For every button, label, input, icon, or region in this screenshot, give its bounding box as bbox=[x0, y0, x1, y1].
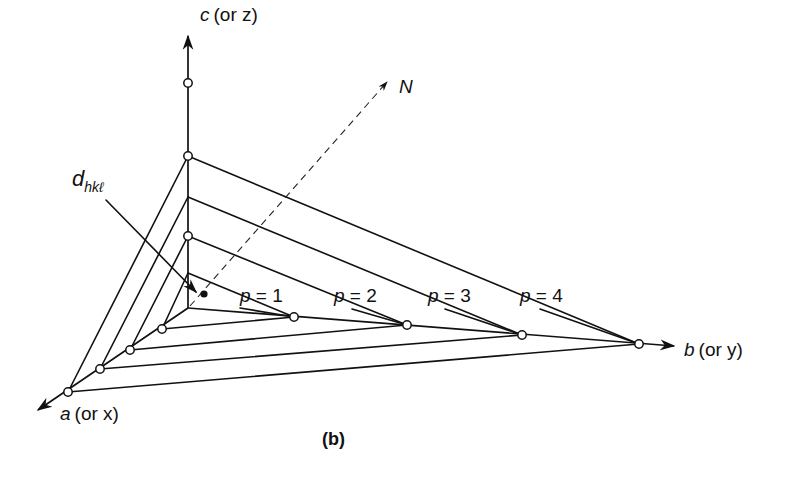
c-axis-lattice-point bbox=[184, 232, 192, 240]
b-axis-arrow bbox=[188, 308, 674, 346]
plane-4-edge-cb bbox=[188, 156, 639, 344]
plane-label-p1: p = 1 bbox=[239, 285, 283, 306]
plane-4-edge-ab bbox=[68, 344, 639, 392]
crystal-planes-diagram: c(or z) N b(or y) a(or x) dhkℓ p = 1 p =… bbox=[0, 0, 786, 482]
figure-caption: (b) bbox=[322, 429, 345, 449]
d-spacing-label: dhkℓ bbox=[72, 166, 104, 195]
a-axis-lattice-point bbox=[126, 346, 134, 354]
c-axis-lattice-point bbox=[184, 152, 192, 160]
b-axis-lattice-point bbox=[290, 313, 298, 321]
a-axis-lattice-point bbox=[64, 388, 72, 396]
normal-dashed-line bbox=[190, 82, 387, 306]
d-spacing-foot-dot bbox=[200, 290, 207, 297]
axes bbox=[38, 36, 674, 410]
a-axis-lattice-point bbox=[158, 325, 166, 333]
normal-label: N bbox=[399, 76, 413, 97]
b-axis-lattice-point bbox=[518, 331, 526, 339]
b-axis-label: b(or y) bbox=[684, 339, 743, 360]
plane-label-p3: p = 3 bbox=[427, 285, 471, 306]
plane-2-edge-cb bbox=[188, 236, 407, 325]
c-axis-lattice-point bbox=[184, 79, 192, 87]
plane-normal bbox=[106, 82, 387, 306]
plane-labels: p = 1 p = 2 p = 3 p = 4 bbox=[239, 285, 563, 306]
plane-3-edge-ca bbox=[100, 197, 188, 369]
c-axis-label: c(or z) bbox=[200, 4, 258, 25]
lattice-planes bbox=[68, 156, 639, 392]
plane-3-edge-cb bbox=[188, 197, 522, 335]
plane-label-p2: p = 2 bbox=[333, 285, 377, 306]
a-axis-lattice-point bbox=[96, 365, 104, 373]
plane-label-p4: p = 4 bbox=[519, 285, 563, 306]
plane-3-edge-ab bbox=[100, 335, 522, 369]
plane-1-edge-ca bbox=[162, 273, 188, 329]
a-axis-label: a(or x) bbox=[60, 403, 119, 424]
b-axis-lattice-point bbox=[635, 340, 643, 348]
b-axis-lattice-point bbox=[403, 321, 411, 329]
plane-1-edge-ab bbox=[162, 317, 294, 329]
